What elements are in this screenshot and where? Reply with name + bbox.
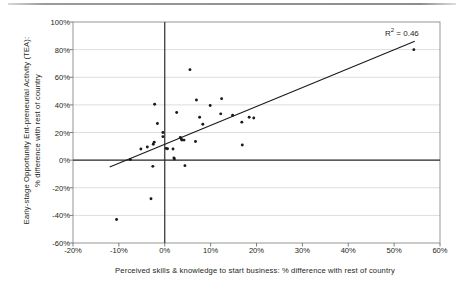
- data-point: [152, 143, 155, 146]
- data-point: [139, 148, 142, 151]
- data-point: [231, 114, 234, 117]
- data-point: [146, 146, 149, 149]
- data-point: [183, 164, 186, 167]
- data-point: [201, 123, 204, 126]
- data-point: [198, 116, 201, 119]
- data-point: [209, 104, 212, 107]
- data-point: [150, 197, 153, 200]
- data-point: [194, 140, 197, 143]
- data-point: [156, 122, 159, 125]
- data-point: [151, 165, 154, 168]
- data-point: [115, 218, 118, 221]
- data-point: [412, 48, 415, 51]
- data-point: [166, 147, 169, 150]
- data-point: [220, 97, 223, 100]
- data-point: [189, 68, 192, 71]
- data-point: [240, 121, 243, 124]
- data-point: [173, 158, 176, 161]
- data-point: [219, 112, 222, 115]
- chart-figure: Early-stage Opportunity Ent-preneurial A…: [0, 0, 462, 289]
- data-point: [129, 158, 132, 161]
- r-squared-annotation: R2 = 0.46: [385, 27, 419, 38]
- data-point: [175, 111, 178, 114]
- data-point: [195, 99, 198, 102]
- scatter-plot-canvas: [0, 0, 462, 289]
- data-point: [172, 148, 175, 151]
- data-point: [241, 143, 244, 146]
- data-point: [161, 131, 164, 134]
- data-point: [161, 135, 164, 138]
- x-axis-label: Perceived skills & knowledge to start bu…: [60, 266, 450, 275]
- data-point: [183, 139, 186, 142]
- data-point: [153, 103, 156, 106]
- data-point: [252, 117, 255, 120]
- r-squared-value: = 0.46: [394, 29, 419, 38]
- data-point: [248, 116, 251, 119]
